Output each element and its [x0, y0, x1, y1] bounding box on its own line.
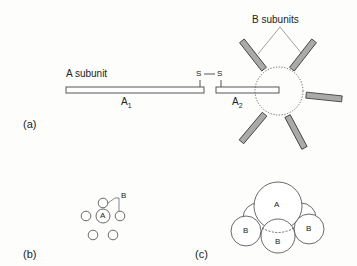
a1-label: A1 [121, 96, 132, 109]
diagram-canvas [0, 0, 357, 266]
b-subunits-label: B subunits [252, 14, 299, 25]
b-pointer [108, 198, 119, 211]
c-b-left-label: B [243, 226, 248, 235]
s-right-label: S [217, 69, 222, 78]
b-subunits-bracket [258, 27, 302, 54]
c-b-center-label: B [275, 237, 280, 246]
a1-bar [66, 87, 204, 93]
b-b-label: B [121, 191, 126, 200]
a2-bar [216, 87, 279, 93]
panel-c-label: (c) [195, 248, 208, 260]
b-a-label: A [100, 211, 105, 220]
panel-b-label: (b) [23, 248, 36, 260]
b-subunit-rods [239, 39, 342, 149]
a-subunit-label: A subunit [66, 68, 107, 79]
c-a-label: A [274, 200, 279, 209]
a2-label: A2 [232, 96, 243, 109]
c-b-right-label: B [306, 224, 311, 233]
s-left-label: S [196, 69, 201, 78]
panel-a-label: (a) [23, 118, 36, 130]
